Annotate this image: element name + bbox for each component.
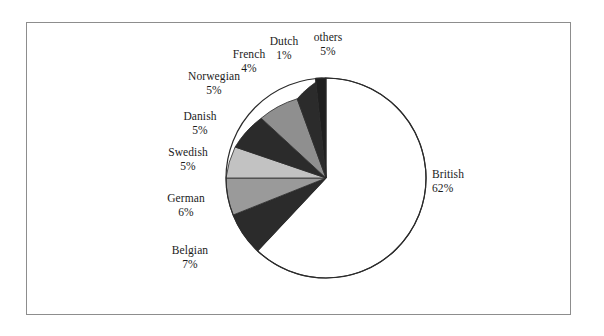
pie-label-others-name: others [302,31,354,45]
pie-label-danish-percent: 5% [162,124,238,138]
pie-label-german-name: German [148,192,224,206]
pie-label-norwegian-percent: 5% [172,84,256,98]
pie-label-german-percent: 6% [148,206,224,220]
pie-label-others-percent: 5% [302,45,354,59]
pie-label-french-percent: 4% [218,62,280,76]
chart-page: British 62% Belgian 7% German 6% Swedish… [0,0,604,336]
pie-label-british-percent: 62% [432,182,464,196]
pie-label-swedish-name: Swedish [150,146,226,160]
pie-label-belgian: Belgian 7% [152,244,228,271]
pie-label-swedish-percent: 5% [150,160,226,174]
pie-label-danish-name: Danish [162,110,238,124]
pie-label-swedish: Swedish 5% [150,146,226,173]
pie-label-danish: Danish 5% [162,110,238,137]
pie-chart: British 62% Belgian 7% German 6% Swedish… [0,0,604,336]
pie-label-british: British 62% [432,168,464,195]
pie-label-others: others 5% [302,31,354,58]
pie-label-german: German 6% [148,192,224,219]
pie-label-belgian-percent: 7% [152,258,228,272]
pie-label-belgian-name: Belgian [152,244,228,258]
pie-label-british-name: British [432,168,464,182]
